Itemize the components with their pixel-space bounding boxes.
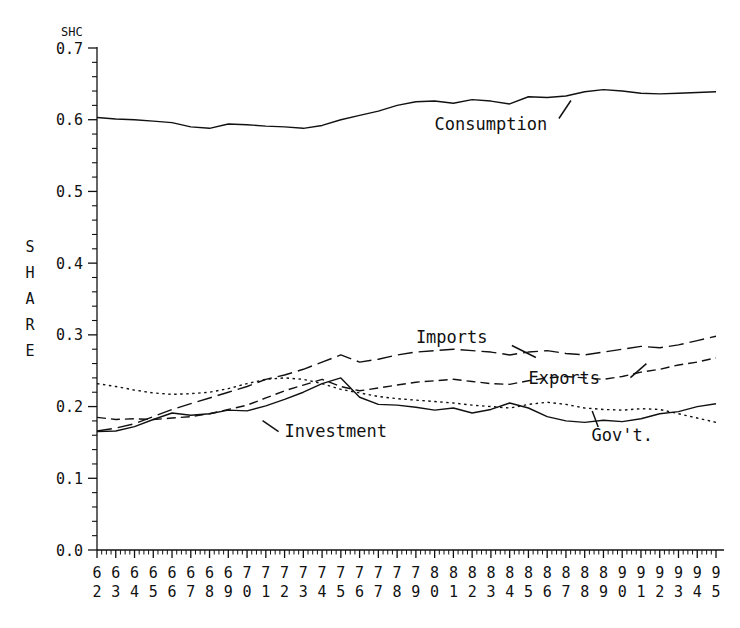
x-tick-label-year: 2 (468, 583, 477, 601)
x-tick-label-decade: 6 (92, 564, 101, 582)
x-tick-label-decade: 6 (130, 564, 139, 582)
y-tick-label: 0.2 (56, 398, 83, 416)
y-axis-title-letter: R (25, 316, 35, 334)
x-tick-label-year: 1 (636, 583, 645, 601)
x-tick-label-year: 3 (674, 583, 683, 601)
y-tick-label: 0.3 (56, 326, 83, 344)
y-tick-label: 0.1 (56, 470, 83, 488)
x-tick-label-year: 8 (205, 583, 214, 601)
x-tick-label-year: 4 (693, 583, 702, 601)
x-tick-label-decade: 9 (674, 564, 683, 582)
x-tick-label-decade: 8 (599, 564, 608, 582)
x-tick-label-decade: 7 (336, 564, 345, 582)
x-tick-label-decade: 7 (261, 564, 270, 582)
x-tick-label-year: 0 (430, 583, 439, 601)
x-tick-label-decade: 6 (168, 564, 177, 582)
x-tick-label-year: 2 (655, 583, 664, 601)
x-tick-label-decade: 7 (393, 564, 402, 582)
x-tick-label-decade: 9 (711, 564, 720, 582)
x-tick-label-year: 6 (168, 583, 177, 601)
x-tick-label-decade: 7 (243, 564, 252, 582)
x-tick-label-decade: 7 (280, 564, 289, 582)
x-tick-label-year: 4 (130, 583, 139, 601)
x-tick-label-decade: 6 (111, 564, 120, 582)
x-tick-label-decade: 9 (636, 564, 645, 582)
y-axis-title-letter: E (25, 342, 34, 360)
x-tick-label-decade: 6 (205, 564, 214, 582)
x-tick-label-year: 3 (111, 583, 120, 601)
series-annotation-exports: Exports (528, 368, 600, 388)
series-line-consumption (97, 90, 716, 129)
x-tick-label-decade: 8 (449, 564, 458, 582)
x-tick-label-decade: 8 (561, 564, 570, 582)
x-tick-label-year: 5 (336, 583, 345, 601)
y-tick-label: 0.0 (56, 542, 83, 560)
series-annotation-consumption: Consumption (435, 114, 548, 134)
leader-line-investment (263, 421, 279, 432)
x-tick-label-year: 9 (599, 583, 608, 601)
x-tick-label-year: 6 (543, 583, 552, 601)
x-tick-label-year: 8 (393, 583, 402, 601)
y-tick-label: 0.7 (56, 40, 83, 58)
share-line-chart: 0.00.10.20.30.40.50.60.7SHCSHARE62636465… (0, 0, 740, 628)
y-axis-title-letter: A (25, 290, 34, 308)
y-tick-label: 0.5 (56, 183, 83, 201)
x-tick-label-decade: 7 (355, 564, 364, 582)
x-tick-label-year: 3 (486, 583, 495, 601)
series-line-exports (97, 358, 716, 420)
x-tick-label-year: 0 (618, 583, 627, 601)
x-tick-label-year: 4 (505, 583, 514, 601)
x-tick-label-year: 2 (92, 583, 101, 601)
series-annotation-imports: Imports (416, 327, 488, 347)
leader-line-consumption (559, 100, 571, 118)
x-tick-label-decade: 7 (411, 564, 420, 582)
x-tick-label-year: 7 (186, 583, 195, 601)
y-tick-label: 0.6 (56, 111, 83, 129)
series-annotation-investment: Investment (285, 421, 387, 441)
x-tick-label-decade: 8 (524, 564, 533, 582)
x-tick-label-decade: 8 (505, 564, 514, 582)
x-tick-label-year: 1 (449, 583, 458, 601)
x-tick-label-decade: 9 (693, 564, 702, 582)
y-axis-title-letter: H (25, 264, 34, 282)
x-tick-label-year: 7 (561, 583, 570, 601)
series-line-imports (97, 336, 716, 431)
x-tick-label-year: 3 (299, 583, 308, 601)
x-tick-label-decade: 8 (486, 564, 495, 582)
x-tick-label-decade: 7 (318, 564, 327, 582)
x-tick-label-decade: 8 (468, 564, 477, 582)
x-tick-label-year: 8 (580, 583, 589, 601)
x-tick-label-year: 2 (280, 583, 289, 601)
x-tick-label-year: 0 (243, 583, 252, 601)
x-tick-label-decade: 8 (543, 564, 552, 582)
y-axis-title-letter: S (25, 238, 34, 256)
x-tick-label-decade: 9 (655, 564, 664, 582)
x-tick-label-year: 4 (318, 583, 327, 601)
x-tick-label-year: 9 (411, 583, 420, 601)
x-tick-label-decade: 6 (224, 564, 233, 582)
x-tick-label-decade: 7 (299, 564, 308, 582)
y-axis-unit-label: SHC (61, 25, 83, 39)
x-tick-label-decade: 9 (618, 564, 627, 582)
x-tick-label-decade: 8 (580, 564, 589, 582)
x-tick-label-year: 7 (374, 583, 383, 601)
series-line-investment (97, 378, 716, 432)
chart-root: 0.00.10.20.30.40.50.60.7SHCSHARE62636465… (0, 0, 740, 628)
x-tick-label-decade: 8 (430, 564, 439, 582)
x-tick-label-decade: 7 (374, 564, 383, 582)
x-tick-label-year: 1 (261, 583, 270, 601)
y-tick-label: 0.4 (56, 255, 83, 273)
x-tick-label-year: 6 (355, 583, 364, 601)
leader-line-exports (630, 364, 646, 378)
x-tick-label-year: 5 (149, 583, 158, 601)
x-tick-label-decade: 6 (149, 564, 158, 582)
series-annotation-govt: Gov't. (592, 425, 653, 445)
x-tick-label-year: 5 (711, 583, 720, 601)
x-tick-label-year: 9 (224, 583, 233, 601)
x-tick-label-decade: 6 (186, 564, 195, 582)
x-tick-label-year: 5 (524, 583, 533, 601)
